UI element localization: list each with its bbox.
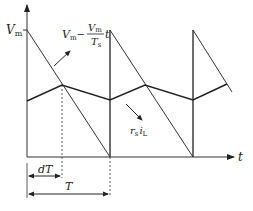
period-label: T bbox=[65, 180, 74, 193]
axes bbox=[23, 5, 234, 157]
triangle-label-arrow bbox=[126, 104, 142, 120]
vm-axis-label: Vm bbox=[6, 23, 23, 38]
t-axis-label: t bbox=[238, 150, 243, 164]
svg-text:t: t bbox=[105, 28, 110, 41]
svg-text:Ts: Ts bbox=[91, 36, 102, 49]
svg-text:Vm−: Vm− bbox=[62, 28, 85, 42]
sawtooth-formula: Vm− Vm Ts t bbox=[62, 22, 110, 49]
triangle-wave bbox=[27, 84, 227, 101]
triangle-label: rsiL bbox=[130, 125, 148, 138]
sawtooth-label-arrow bbox=[54, 51, 70, 66]
duty-label: dT bbox=[38, 163, 54, 176]
sawtooth-ramp bbox=[27, 30, 232, 157]
pwm-waveform-diagram: Vm t Vm− Vm Ts t rsiL dT T bbox=[0, 0, 253, 211]
svg-text:Vm: Vm bbox=[88, 22, 102, 34]
